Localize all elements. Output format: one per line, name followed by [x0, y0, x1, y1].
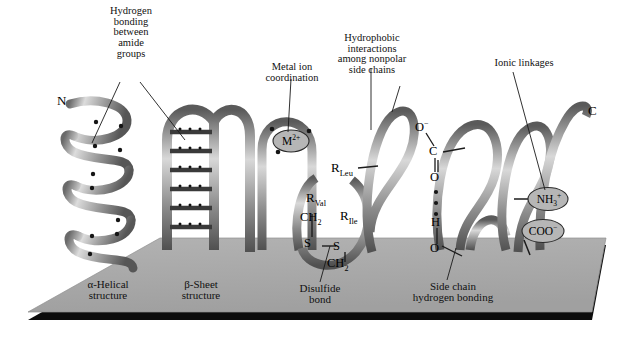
ch2-upper-label: CH2: [300, 210, 321, 227]
callout-hydrophobic-interactions: Hydrophobic interactions among nonpolar …: [311, 33, 433, 76]
metal-ion-text: M: [282, 135, 292, 147]
callout-hydrogen-bonding-amide: Hydrogen bonding between amide groups: [92, 6, 170, 60]
hydroxyl-oxygen-label: O: [430, 241, 439, 256]
callout-line: groups: [92, 49, 170, 60]
base-label-line: structure: [155, 290, 247, 301]
ammonium-charge: +: [557, 191, 561, 200]
hydrogen-donor-label: H: [431, 215, 440, 230]
metal-ion-charge: 2+: [292, 133, 300, 142]
ch2-upper-text: CH: [300, 210, 317, 224]
n-terminus-label: N: [57, 93, 66, 109]
oxygen-anion-label: O−: [415, 119, 429, 135]
base-label-side-chain-hydrogen-bonding: Side chain hydrogen bonding: [392, 281, 514, 303]
base-label-beta-sheet-structure: β-Sheet structure: [155, 279, 247, 301]
hydrophobic-loop-ribbon: [367, 111, 414, 252]
carboxylate-text: COO: [529, 225, 553, 237]
c-terminus-label: C: [588, 103, 597, 119]
r-leu-label: RLeu: [331, 160, 353, 178]
r-ile-symbol: R: [340, 208, 349, 223]
protein-structure-figure: Hydrogen bonding between amide groups Me…: [0, 0, 623, 348]
sulfur-right-label: S: [333, 239, 340, 254]
carboxylate-charge: −: [553, 223, 557, 232]
ch2-lower-label: CH2: [327, 256, 348, 273]
base-label-alpha-helical-structure: α-Helical structure: [62, 279, 154, 301]
oxygen-anion-text: O: [415, 120, 424, 134]
r-ile-subscript: Ile: [349, 216, 358, 226]
base-label-disulfide-bond: Disulfide bond: [272, 283, 368, 305]
r-leu-subscript: Leu: [340, 168, 353, 178]
ch2-upper-sub: 2: [317, 218, 321, 227]
sidechain-hbond-loops: [437, 125, 506, 250]
carboxylate-badge: COO−: [522, 223, 564, 237]
callout-line: side chains: [311, 65, 433, 76]
callout-ionic-linkages: Ionic linkages: [470, 58, 578, 69]
r-leu-symbol: R: [331, 160, 340, 175]
oxygen-anion-sup: −: [424, 119, 429, 128]
r-val-symbol: R: [306, 190, 315, 205]
base-label-line: structure: [62, 290, 154, 301]
ammonium-sub: 3: [553, 199, 557, 208]
base-label-line: hydrogen bonding: [392, 292, 514, 303]
r-ile-label: RIle: [340, 208, 358, 226]
sulfur-left-label: S: [304, 236, 311, 251]
carbon-label: C: [429, 144, 437, 159]
r-val-subscript: Val: [315, 198, 326, 208]
metal-ion-badge: M2+: [273, 133, 309, 147]
carbonyl-oxygen-label: O: [430, 170, 439, 185]
beta-sheet-hbond-rungs: [170, 128, 212, 228]
ammonium-badge: NH3+: [529, 191, 569, 208]
ch2-lower-sub: 2: [344, 264, 348, 273]
r-val-label: RVal: [306, 190, 326, 208]
base-label-line: bond: [272, 294, 368, 305]
ch2-lower-text: CH: [327, 256, 344, 270]
ammonium-text: NH: [537, 193, 554, 205]
callout-line: Ionic linkages: [470, 58, 578, 69]
